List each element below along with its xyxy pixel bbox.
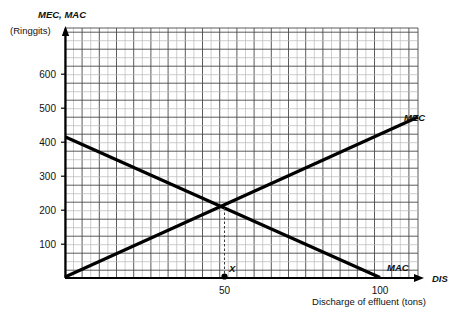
graph-figure: MEC, MAC (Ringgits) 600 500 400 300 200 …: [0, 0, 474, 317]
x-axis-symbol-label: DIS: [432, 273, 449, 284]
y-tick-400: 400: [39, 137, 56, 148]
mec-mac-chart-svg: MEC, MAC (Ringgits) 600 500 400 300 200 …: [0, 0, 474, 317]
y-tick-100: 100: [39, 239, 56, 250]
mac-curve-label: MAC: [387, 262, 409, 273]
x-tick-50: 50: [219, 285, 231, 296]
y-tick-500: 500: [39, 103, 56, 114]
y-axis-unit-label: (Ringgits): [10, 25, 51, 36]
y-axis-title: MEC, MAC: [38, 9, 86, 20]
mec-curve-label: MEC: [404, 112, 425, 123]
x-axis-caption: Discharge of effluent (tons): [312, 296, 426, 307]
y-tick-600: 600: [39, 69, 56, 80]
x-tick-100: 100: [372, 285, 389, 296]
y-tick-200: 200: [39, 205, 56, 216]
equilibrium-point-marker: [221, 273, 227, 279]
y-tick-300: 300: [39, 171, 56, 182]
equilibrium-point-label: X: [228, 263, 236, 274]
